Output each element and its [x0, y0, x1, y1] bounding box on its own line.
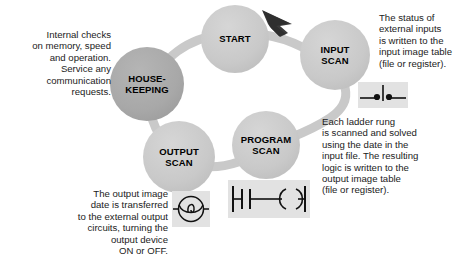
node-input-scan — [300, 20, 370, 90]
note-program-scan: Each ladder rung is scanned and solved u… — [322, 116, 430, 196]
plc-scan-cycle-diagram: HOUSE- KEEPING START INPUT SCAN PROGRAM … — [0, 0, 465, 270]
limit-switch-symbol — [358, 82, 408, 108]
node-start — [201, 5, 269, 73]
node-output-scan — [143, 121, 215, 193]
pilot-lamp-symbol — [172, 191, 210, 227]
note-output-scan: The output image date is transferred to … — [48, 188, 168, 256]
note-housekeeping: Internal checks on memory, speed and ope… — [8, 29, 111, 97]
node-housekeeping — [110, 47, 184, 121]
node-program-scan — [232, 111, 300, 179]
ladder-rung-symbol — [228, 180, 310, 218]
note-input-scan: The status of external inputs is written… — [379, 12, 465, 69]
